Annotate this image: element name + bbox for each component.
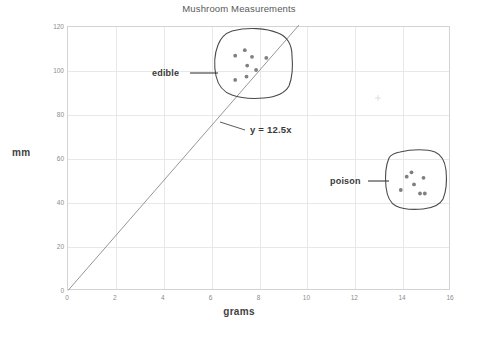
mushroom-measurements-chart: Mushroom Measurements 120 100 80 60 40 2… — [0, 0, 478, 337]
x-tick-label: 12 — [342, 294, 366, 302]
y-tick-label: 120 — [38, 23, 64, 30]
x-tick-label: 6 — [199, 294, 223, 302]
gridline-vertical — [212, 27, 213, 289]
y-tick-label: 60 — [38, 155, 64, 162]
gridline-vertical — [355, 27, 356, 289]
gridline-horizontal — [68, 71, 449, 72]
x-tick-label: 4 — [151, 294, 175, 302]
y-tick-label: 100 — [38, 67, 64, 74]
y-tick-label: 0 — [38, 287, 64, 294]
x-axis-title: grams — [0, 306, 478, 317]
y-tick-label: 80 — [38, 111, 64, 118]
chart-title: Mushroom Measurements — [0, 3, 478, 14]
y-tick-label: 40 — [38, 199, 64, 206]
y-axis-tick-labels: 120 100 80 60 40 20 0 — [36, 26, 64, 290]
y-tick-label: 20 — [38, 243, 64, 250]
x-tick-label: 16 — [438, 294, 462, 302]
y-axis-title: mm — [12, 147, 31, 158]
gridline-horizontal — [68, 115, 449, 116]
gridline-vertical — [116, 27, 117, 289]
x-tick-label: 2 — [103, 294, 127, 302]
gridline-vertical — [164, 27, 165, 289]
gridline-horizontal — [68, 203, 449, 204]
poison-cluster-label: poison — [330, 176, 361, 186]
gridline-horizontal — [68, 247, 449, 248]
gridline-vertical — [260, 27, 261, 289]
x-axis-tick-labels: 0 2 4 6 8 10 12 14 16 — [67, 294, 450, 306]
gridline-vertical — [403, 27, 404, 289]
edible-cluster-label: edible — [152, 68, 179, 78]
x-tick-label: 0 — [55, 294, 79, 302]
x-tick-label: 10 — [294, 294, 318, 302]
x-tick-label: 14 — [390, 294, 414, 302]
gridline-vertical — [307, 27, 308, 289]
x-tick-label: 8 — [247, 294, 271, 302]
trendline-equation-label: y = 12.5x — [250, 124, 292, 135]
gridline-horizontal — [68, 159, 449, 160]
plot-area — [67, 26, 450, 290]
